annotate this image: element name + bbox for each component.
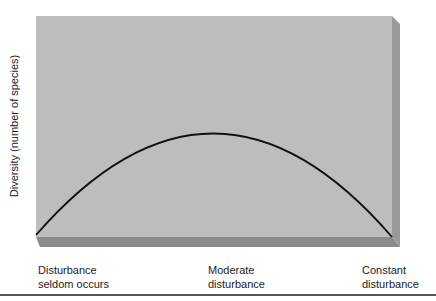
x-label-left-line1: Disturbance [38, 263, 109, 277]
plot-panel [36, 16, 392, 237]
x-label-left: Disturbance seldom occurs [38, 263, 109, 291]
x-label-right-line1: Constant [362, 263, 419, 277]
panel-right-bevel [392, 16, 400, 247]
x-label-right: Constant disturbance [362, 263, 419, 291]
x-label-middle: Moderate disturbance [208, 263, 265, 291]
x-label-right-line2: disturbance [362, 277, 419, 291]
panel-bottom-bevel [36, 237, 400, 247]
x-label-middle-line1: Moderate [208, 263, 265, 277]
x-label-middle-line2: disturbance [208, 277, 265, 291]
y-axis-label: Diversity (number of species) [8, 26, 24, 226]
bottom-rule [0, 294, 436, 296]
x-label-left-line2: seldom occurs [38, 277, 109, 291]
chart-figure [0, 0, 436, 301]
